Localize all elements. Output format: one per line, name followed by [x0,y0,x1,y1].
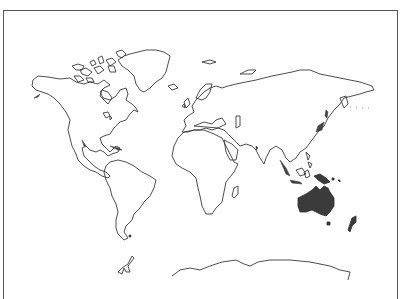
antarctica [172,260,350,280]
sumatra [280,160,290,176]
antarctic-peninsula [118,256,134,274]
java [290,180,302,184]
new-zealand [348,216,356,232]
pacific-islands [332,178,340,182]
new-guinea [314,174,330,184]
hudson-bay [100,90,112,104]
falklands [129,235,131,237]
british-isles [182,98,190,108]
sulawesi [304,170,310,178]
mediterranean [194,118,226,128]
caspian-sea [236,116,240,128]
australia [298,186,334,216]
madagascar [232,186,238,198]
arctic-islands [72,50,126,82]
iceland [168,84,178,90]
world-map [0,0,402,299]
greenland [118,50,170,92]
south-america [104,160,156,240]
great-lakes [103,112,112,120]
north-america [32,76,138,178]
tasmania [327,222,330,225]
africa [172,130,238,214]
sri-lanka [256,146,258,150]
alaska-island [34,94,40,98]
philippines [306,152,312,168]
aleutian-dots [350,107,369,108]
baja [82,140,86,146]
svalbard [202,60,216,64]
novaya-zemlya [240,70,256,74]
